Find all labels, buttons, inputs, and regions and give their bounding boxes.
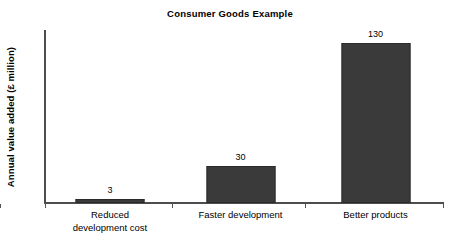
x-axis-tick [0,204,1,208]
x-axis-tick [305,204,306,208]
plot-area: 3 30 130 [46,30,444,203]
x-axis-category-label: Reduced development cost [46,209,174,234]
chart-title: Consumer Goods Example [0,8,460,20]
y-axis-label-container: Annual value added (£ million) [0,30,20,203]
bar-chart: Consumer Goods Example Annual value adde… [0,0,460,252]
y-axis-label: Annual value added (£ million) [5,46,16,186]
x-axis-tick [45,204,46,208]
x-axis-category-label: Faster development [174,209,307,222]
bar-group: 3 [46,30,174,203]
x-axis-tick [443,204,444,208]
bar[interactable] [206,166,275,203]
bar-value-label: 3 [107,185,112,195]
bar-value-label: 30 [235,152,245,162]
bar-group: 130 [307,30,444,203]
bar-group: 30 [174,30,307,203]
bar[interactable] [341,43,410,203]
x-axis-tick [172,204,173,208]
bar[interactable] [76,199,145,203]
bar-value-label: 130 [368,29,383,39]
x-axis-category-label: Better products [307,209,444,222]
